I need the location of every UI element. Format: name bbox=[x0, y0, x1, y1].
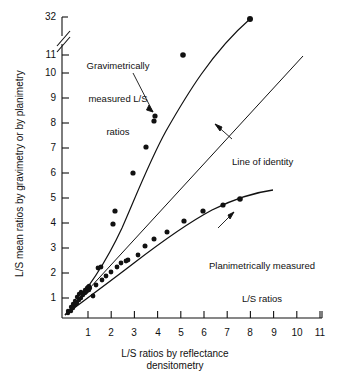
y-tick-label-4: 4 bbox=[30, 217, 56, 228]
gravimetric-annotation: Gravimetrically measured L/S ratios bbox=[72, 38, 164, 148]
planimetric-annotation: Planimetrically measured L/S ratios bbox=[196, 238, 328, 315]
x-tick-label-10: 10 bbox=[289, 327, 305, 338]
line-of-identity-annotation-line1: Line of identity bbox=[232, 156, 316, 167]
y-tick-label-1: 1 bbox=[30, 292, 56, 303]
y-tick-label-8: 8 bbox=[30, 117, 56, 128]
y-axis-ticks bbox=[62, 55, 69, 298]
y-tick-label-3: 3 bbox=[30, 242, 56, 253]
x-axis-label-line2: densitometry bbox=[75, 360, 275, 372]
y-tick-label-5: 5 bbox=[30, 192, 56, 203]
y-tick-label-11: 11 bbox=[30, 49, 56, 60]
planimetric-annotation-line2: L/S ratios bbox=[196, 293, 328, 304]
x-tick-label-11: 11 bbox=[312, 327, 328, 338]
gravimetric-annotation-line2: measured L/S bbox=[72, 93, 164, 104]
planimetric-annotation-line1: Planimetrically measured bbox=[196, 260, 328, 271]
x-axis-label: L/S ratios by reflectance densitometry bbox=[75, 348, 275, 372]
line-of-identity-annotation: Line of identity bbox=[232, 134, 316, 178]
x-tick-label-2: 2 bbox=[103, 327, 119, 338]
x-axis-label-line1: L/S ratios by reflectance bbox=[75, 348, 275, 360]
x-tick-label-4: 4 bbox=[150, 327, 166, 338]
x-tick-label-6: 6 bbox=[196, 327, 212, 338]
y-axis-label: L/S mean ratios by gravimetry or by plan… bbox=[14, 59, 25, 289]
gravimetric-annotation-line3: ratios bbox=[72, 126, 164, 137]
gravimetric-annotation-line1: Gravimetrically bbox=[72, 60, 164, 71]
y-tick-label-9: 9 bbox=[30, 92, 56, 103]
x-tick-label-9: 9 bbox=[266, 327, 282, 338]
x-tick-label-7: 7 bbox=[219, 327, 235, 338]
y-tick-label-6: 6 bbox=[30, 167, 56, 178]
y-axis-break-icon bbox=[57, 31, 70, 52]
y-tick-label-2: 2 bbox=[30, 267, 56, 278]
x-tick-label-1: 1 bbox=[80, 327, 96, 338]
x-tick-label-3: 3 bbox=[126, 327, 142, 338]
x-tick-label-5: 5 bbox=[173, 327, 189, 338]
y-tick-label-10: 10 bbox=[30, 67, 56, 78]
y-tick-label-7: 7 bbox=[30, 142, 56, 153]
y-tick-label-32: 32 bbox=[30, 11, 56, 22]
x-tick-label-8: 8 bbox=[242, 327, 258, 338]
